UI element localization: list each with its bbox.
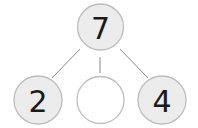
connector-line-right xyxy=(120,49,148,78)
connector-line-left xyxy=(52,49,80,78)
whole-value: 7 xyxy=(91,11,110,46)
part-value-right: 4 xyxy=(152,84,171,119)
part-value-left: 2 xyxy=(28,84,47,119)
part-circle-middle[interactable] xyxy=(77,77,124,124)
part-circle-left: 2 xyxy=(14,76,62,124)
number-bond-diagram: 7 2 4 xyxy=(0,0,198,128)
whole-circle: 7 xyxy=(78,4,124,50)
part-circle-right: 4 xyxy=(138,76,186,124)
